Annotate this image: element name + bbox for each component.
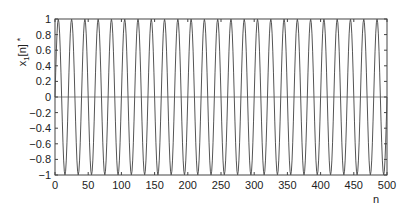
y-tick-label: −0.4 [29,122,51,134]
svg-text:x1[n]*: x1[n]* [15,37,31,66]
y-tick-label: 0.6 [36,44,51,56]
x-tick-label: 450 [345,179,363,191]
plot-area [55,19,387,175]
chart: 050100150200250300350400450500 10.80.60.… [0,0,412,207]
y-tick-label: −0.6 [29,138,51,150]
x-tick-label: 200 [179,179,197,191]
x-tick-label: 0 [52,179,58,191]
y-axis-label: x1[n]* [15,37,31,66]
x-tick-label: 250 [212,179,230,191]
x-tick-label: 150 [145,179,163,191]
y-tick-label: 0.4 [36,60,51,72]
y-tick-label: 0.8 [36,29,51,41]
x-tick-label: 50 [82,179,94,191]
y-tick-label: −1 [38,169,51,181]
x-tick-label: 500 [378,179,396,191]
x-axis-label: n [373,193,379,205]
y-tick-label: −0.2 [29,107,51,119]
x-tick-label: 350 [278,179,296,191]
x-tick-label: 400 [311,179,329,191]
y-tick-label: −0.8 [29,153,51,165]
y-tick-label: 0 [45,91,51,103]
y-tick-label: 1 [45,13,51,25]
x-tick-label: 100 [112,179,130,191]
y-tick-label: 0.2 [36,75,51,87]
x-tick-label: 300 [245,179,263,191]
